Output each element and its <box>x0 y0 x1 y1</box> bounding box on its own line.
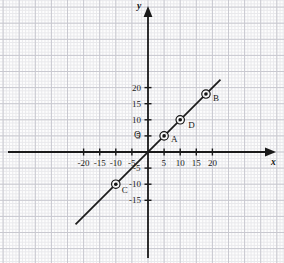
point-label-c: C <box>122 185 128 195</box>
x-tick-label: -20 <box>78 158 90 168</box>
y-axis-label: y <box>137 1 141 11</box>
x-axis-label: x <box>271 157 276 167</box>
x-tick-label: 5 <box>162 158 167 168</box>
y-tick-label: 15 <box>132 99 141 109</box>
x-tick-label: 15 <box>192 158 201 168</box>
axes <box>8 6 276 258</box>
data-point-b <box>202 90 210 98</box>
x-tick-label: 20 <box>208 158 217 168</box>
y-tick-label: -5 <box>133 163 141 173</box>
point-label-a: A <box>171 134 178 144</box>
x-tick-label: 10 <box>176 158 185 168</box>
plot-area <box>0 0 284 263</box>
origin-label: O <box>134 130 141 140</box>
y-tick-label: -15 <box>129 195 141 205</box>
y-tick-label: 10 <box>132 115 141 125</box>
y-tick-label: 20 <box>132 83 141 93</box>
x-tick-label: -15 <box>94 158 106 168</box>
data-point-a <box>160 132 168 140</box>
x-tick-label: -10 <box>110 158 122 168</box>
point-label-d: D <box>188 120 195 130</box>
data-point-d <box>176 116 184 124</box>
coordinate-graph-figure: ABCD-20-15-10-55101520-15-10-55101520Oxy <box>0 0 284 263</box>
point-label-b: B <box>213 93 219 103</box>
data-point-c <box>112 180 120 188</box>
y-tick-label: -10 <box>129 179 141 189</box>
